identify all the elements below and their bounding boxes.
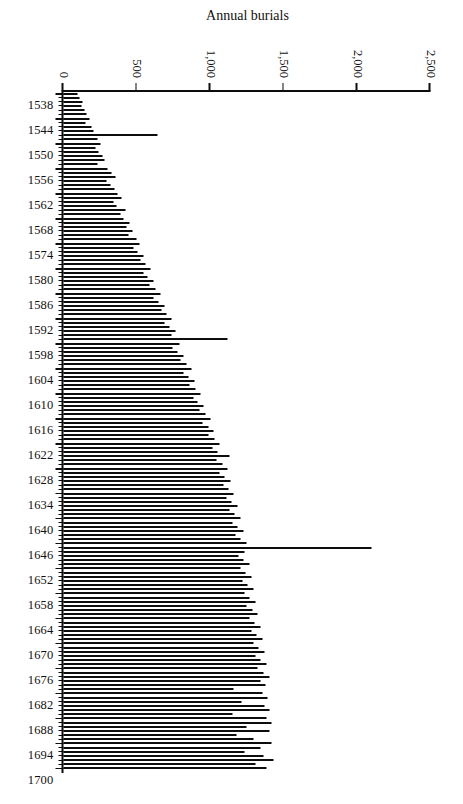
bar-series bbox=[63, 92, 430, 771]
x-axis-minor-tick bbox=[58, 639, 63, 640]
x-axis-minor-tick bbox=[58, 735, 63, 736]
x-axis-major-tick bbox=[55, 318, 63, 320]
x-axis-tick-label: 1682 bbox=[27, 698, 53, 713]
x-axis-minor-tick bbox=[58, 535, 63, 536]
x-axis-minor-tick bbox=[58, 647, 63, 648]
x-axis-minor-tick bbox=[58, 714, 63, 715]
x-axis-tick-label: 1586 bbox=[27, 298, 53, 313]
x-axis-major-tick bbox=[55, 293, 63, 295]
bar bbox=[63, 472, 219, 474]
x-axis-minor-tick bbox=[58, 122, 63, 123]
x-axis-minor-tick bbox=[58, 276, 63, 277]
x-axis-minor-tick bbox=[58, 601, 63, 602]
x-axis-minor-tick bbox=[58, 189, 63, 190]
bar bbox=[63, 451, 217, 453]
bar bbox=[63, 493, 233, 495]
x-axis-minor-tick bbox=[58, 310, 63, 311]
bar bbox=[63, 526, 237, 528]
bar bbox=[63, 572, 245, 574]
bar bbox=[63, 101, 82, 103]
x-axis-minor-tick bbox=[58, 364, 63, 365]
bar bbox=[63, 355, 183, 357]
x-axis-minor-tick bbox=[58, 326, 63, 327]
x-axis-minor-tick bbox=[58, 426, 63, 427]
x-axis-minor-tick bbox=[58, 405, 63, 406]
bar bbox=[63, 143, 100, 145]
bar bbox=[63, 580, 242, 582]
x-axis-minor-tick bbox=[58, 289, 63, 290]
x-axis-tick-label: 1562 bbox=[27, 198, 53, 213]
bar bbox=[63, 567, 240, 569]
bar bbox=[63, 459, 216, 461]
y-axis-tick bbox=[355, 83, 357, 91]
bar bbox=[63, 188, 114, 190]
x-axis-minor-tick bbox=[58, 101, 63, 102]
x-axis-minor-tick bbox=[58, 235, 63, 236]
bar bbox=[63, 738, 253, 740]
bar bbox=[63, 584, 247, 586]
bar bbox=[63, 268, 150, 270]
y-axis-tick-label: 500 bbox=[129, 59, 144, 78]
x-axis-minor-tick bbox=[58, 480, 63, 481]
bar bbox=[63, 730, 269, 732]
bar bbox=[63, 763, 255, 765]
x-axis-minor-tick bbox=[58, 210, 63, 211]
x-axis-minor-tick bbox=[58, 722, 63, 723]
bar bbox=[63, 576, 251, 578]
x-axis-minor-tick bbox=[58, 672, 63, 673]
bar bbox=[63, 555, 238, 557]
bar bbox=[63, 755, 263, 757]
x-axis-minor-tick bbox=[58, 580, 63, 581]
x-axis-major-tick bbox=[55, 118, 63, 120]
x-axis-minor-tick bbox=[58, 114, 63, 115]
bar bbox=[63, 105, 81, 107]
bar bbox=[63, 97, 79, 99]
x-axis-minor-tick bbox=[58, 301, 63, 302]
bar bbox=[63, 647, 258, 649]
bar bbox=[63, 501, 231, 503]
bar bbox=[63, 413, 205, 415]
x-axis-minor-tick bbox=[58, 397, 63, 398]
x-axis-minor-tick bbox=[58, 497, 63, 498]
bar bbox=[63, 751, 244, 753]
x-axis-minor-tick bbox=[58, 685, 63, 686]
bar bbox=[63, 151, 98, 153]
x-axis-major-tick bbox=[55, 593, 63, 595]
bar bbox=[63, 705, 264, 707]
bar bbox=[63, 672, 263, 674]
x-axis-major-tick bbox=[55, 218, 63, 220]
plot-area bbox=[63, 92, 430, 771]
x-axis-tick-label: 1610 bbox=[27, 398, 53, 413]
bar bbox=[63, 230, 132, 232]
x-axis-major-tick bbox=[55, 368, 63, 370]
y-axis-title: Annual burials bbox=[206, 8, 289, 24]
bar bbox=[63, 663, 266, 665]
x-axis-minor-tick bbox=[58, 247, 63, 248]
x-axis-minor-tick bbox=[58, 660, 63, 661]
x-axis-minor-tick bbox=[58, 455, 63, 456]
bar bbox=[63, 180, 106, 182]
bar bbox=[63, 517, 240, 519]
bar bbox=[63, 201, 113, 203]
bar bbox=[63, 713, 232, 715]
x-axis-minor-tick bbox=[58, 522, 63, 523]
x-axis-tick-label: 1622 bbox=[27, 448, 53, 463]
x-axis-minor-tick bbox=[58, 239, 63, 240]
x-axis-tick-label: 1676 bbox=[27, 673, 53, 688]
x-axis-tick-label: 1538 bbox=[27, 98, 53, 113]
x-axis-major-tick bbox=[55, 143, 63, 145]
bar bbox=[63, 642, 253, 644]
x-axis-minor-tick bbox=[58, 330, 63, 331]
bar bbox=[63, 655, 255, 657]
x-axis-minor-tick bbox=[58, 97, 63, 98]
bar bbox=[63, 476, 224, 478]
x-axis-tick-label: 1598 bbox=[27, 348, 53, 363]
x-axis-minor-tick bbox=[58, 105, 63, 106]
bar bbox=[63, 626, 260, 628]
x-axis-minor-tick bbox=[58, 164, 63, 165]
x-axis-minor-tick bbox=[58, 264, 63, 265]
x-axis-minor-tick bbox=[58, 597, 63, 598]
bar bbox=[63, 742, 271, 744]
bar bbox=[63, 122, 85, 124]
x-axis-minor-tick bbox=[58, 285, 63, 286]
